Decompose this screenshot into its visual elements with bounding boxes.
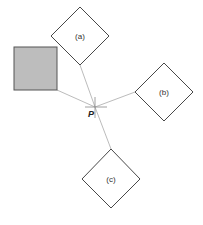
diamond-a-label: (a) (75, 32, 85, 41)
connector-a (80, 65, 95, 107)
connector-b (95, 92, 135, 107)
diamond-b-label: (b) (159, 88, 169, 97)
connector-c (95, 107, 111, 149)
diagram-canvas: (a) (b) (c) P (0, 0, 203, 225)
point-p-label: P (88, 109, 95, 119)
diamond-c-label: (c) (106, 175, 116, 184)
reference-square (14, 47, 57, 90)
connector-square (57, 90, 95, 107)
